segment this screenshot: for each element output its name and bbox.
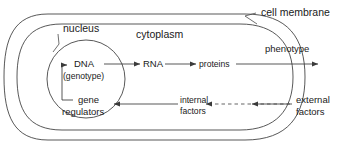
phenotype-label: phenotype — [265, 43, 309, 54]
gene-regulators-label: regulators — [62, 106, 104, 117]
dna-label: DNA — [74, 58, 95, 69]
internal-label: internal — [180, 95, 208, 105]
cell-gene-expression-diagram: cell membrane cytoplasm nucleus DNA (gen… — [0, 0, 342, 154]
external-label: external — [296, 94, 330, 105]
nucleus-leader-line — [53, 34, 59, 52]
proteins-label: proteins — [199, 59, 230, 69]
rna-label: RNA — [143, 58, 164, 69]
internal-factors-label: factors — [180, 106, 206, 116]
genotype-label: (genotype) — [63, 71, 104, 81]
external-factors-label: factors — [296, 106, 325, 117]
nucleus-label: nucleus — [63, 22, 99, 34]
diagram-canvas: cell membrane cytoplasm nucleus DNA (gen… — [0, 0, 342, 154]
gene-label: gene — [78, 94, 99, 105]
cytoplasm-label: cytoplasm — [136, 28, 184, 40]
cell-membrane-label: cell membrane — [261, 6, 330, 18]
